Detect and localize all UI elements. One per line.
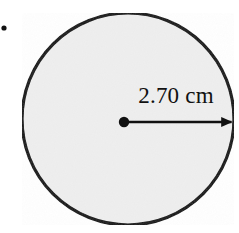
item-bullet-icon (1, 25, 6, 30)
circle-radius-figure: 2.70 cm (0, 0, 239, 233)
figure-canvas: 2.70 cm (0, 0, 239, 233)
radius-measurement-label: 2.70 cm (138, 83, 214, 108)
circle-center-point (119, 117, 129, 127)
